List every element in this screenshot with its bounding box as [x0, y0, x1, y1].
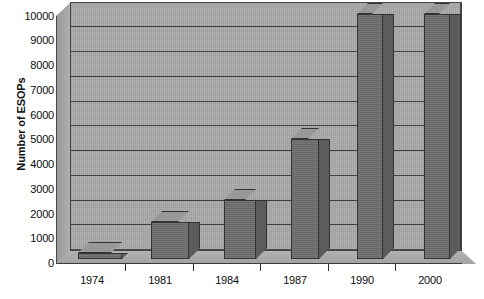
gridline	[71, 175, 460, 176]
x-label-1984: 1984	[192, 274, 262, 286]
x-tick-mark	[395, 264, 396, 271]
y-axis-tick-labels: 10000 9000 8000 7000 6000 5000 4000 3000…	[8, 0, 54, 299]
bar-side-face	[319, 139, 330, 259]
bar-1974	[78, 253, 122, 259]
bar-2000	[424, 14, 450, 259]
gridline	[71, 51, 460, 52]
y-axis-line	[70, 2, 71, 251]
y-tick-label: 10000	[8, 11, 54, 22]
bar-front-face	[78, 253, 122, 259]
esop-bar-chart: Number of ESOPs 10000 9000 8000 7000 600…	[0, 0, 484, 299]
bar-side-face	[450, 14, 461, 259]
bar-side-face	[383, 14, 394, 259]
gridline	[71, 150, 460, 151]
bar-front-face	[224, 200, 256, 259]
plot-floor-edge	[56, 263, 462, 264]
y-tick-label: 1000	[8, 233, 54, 244]
y-tick-label: 4000	[8, 159, 54, 170]
plot-top-border	[70, 2, 462, 3]
y-tick-label: 9000	[8, 35, 54, 46]
bar-front-face	[424, 14, 450, 259]
bar-1987	[291, 139, 319, 259]
bar-1981	[151, 222, 189, 259]
x-label-1990: 1990	[327, 274, 397, 286]
bar-1984	[224, 200, 256, 259]
page-bottom-margin	[0, 290, 484, 299]
bar-front-face	[291, 139, 319, 259]
x-tick-mark	[328, 264, 329, 271]
y-tick-label: 8000	[8, 60, 54, 71]
x-axis-line	[70, 250, 462, 251]
y-tick-label: 6000	[8, 110, 54, 121]
x-label-1987: 1987	[260, 274, 330, 286]
plot-right-border	[461, 2, 462, 251]
bar-1990	[357, 14, 383, 259]
x-label-1981: 1981	[125, 274, 195, 286]
y-tick-label: 0	[8, 258, 54, 269]
x-tick-mark	[260, 264, 261, 271]
gridline	[71, 101, 460, 102]
x-tick-mark	[125, 264, 126, 271]
plot-side-wall-edge	[56, 16, 57, 263]
y-tick-label: 5000	[8, 134, 54, 145]
x-tick-mark	[193, 264, 194, 271]
bar-front-face	[151, 222, 189, 259]
y-tick-label: 2000	[8, 209, 54, 220]
gridline	[71, 125, 460, 126]
gridline	[71, 26, 460, 27]
gridline	[71, 76, 460, 77]
x-label-1974: 1974	[57, 274, 127, 286]
bar-front-face	[357, 14, 383, 259]
plot-side-wall	[56, 2, 71, 264]
y-tick-label: 3000	[8, 184, 54, 195]
y-tick-label: 7000	[8, 85, 54, 96]
x-label-2000: 2000	[395, 274, 465, 286]
